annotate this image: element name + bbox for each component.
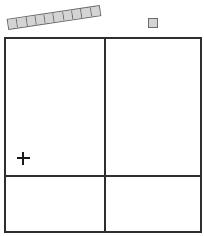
single-square-piece[interactable] xyxy=(148,18,158,28)
board-region-bottom-left[interactable] xyxy=(6,177,104,231)
game-stage xyxy=(0,0,204,236)
board-region-top-right[interactable] xyxy=(106,39,202,175)
game-board[interactable] xyxy=(4,37,202,233)
board-region-bottom-right[interactable] xyxy=(106,177,202,231)
vertical-divider xyxy=(104,39,106,231)
horizontal-divider xyxy=(6,175,200,177)
plus-icon xyxy=(17,152,30,165)
piece-tray-bar[interactable] xyxy=(7,5,102,30)
tray-cell[interactable] xyxy=(91,6,101,16)
